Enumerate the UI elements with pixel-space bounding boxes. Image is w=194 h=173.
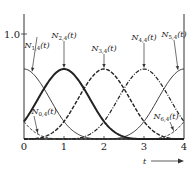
curve-label: N2,4(t) (50, 31, 76, 41)
x-tick-label: 0 (21, 141, 27, 152)
curve-n34t (24, 69, 184, 139)
x-tick-label: 3 (141, 141, 147, 152)
curve-label: N3,4(t) (90, 44, 116, 54)
label-arrow (174, 40, 178, 70)
b-spline-basis-chart: 012341.0 N0,4(t)N1,4(t)N2,4(t)N3,4(t)N4,… (0, 0, 194, 173)
label-arrowhead (35, 129, 38, 133)
curve-n14t (24, 69, 184, 139)
curve-n24t (24, 69, 184, 139)
x-tick-label: 4 (181, 141, 187, 152)
y-tick-label: 1.0 (4, 29, 20, 40)
curve-label: N0,4(t) (30, 107, 56, 117)
curve-label: N6,4(t) (152, 112, 178, 122)
label-arrowhead (176, 66, 179, 70)
curve-label: N4,4(t) (130, 33, 156, 43)
curves (24, 69, 184, 139)
x-tick-label: 1 (61, 141, 67, 152)
label-arrowhead (102, 64, 105, 68)
label-arrowhead (31, 67, 34, 71)
curve-label: N5,4(t) (160, 30, 186, 40)
t-axis-arrow: t (143, 157, 184, 166)
x-tick-label: 2 (101, 141, 107, 152)
curve-n44t (24, 69, 184, 139)
label-arrowhead (142, 64, 145, 68)
t-arrow-head (178, 159, 184, 164)
t-axis-label: t (143, 157, 147, 166)
label-arrowhead (62, 64, 65, 68)
label-arrow (32, 37, 37, 71)
curve-n54t (24, 69, 184, 139)
